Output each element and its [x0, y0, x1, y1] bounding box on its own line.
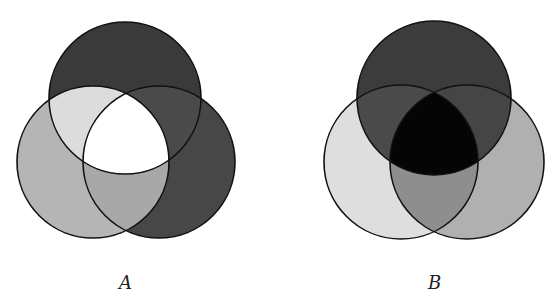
venn-diagrams-canvas [0, 0, 556, 304]
diagram-a-label: A [119, 272, 132, 293]
diagram-b-label: B [428, 272, 441, 293]
venn-diagram-b [324, 21, 544, 239]
venn-diagram-a [17, 22, 235, 238]
